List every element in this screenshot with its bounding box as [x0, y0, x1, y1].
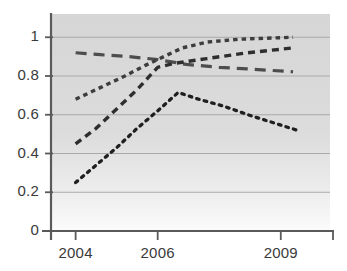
line-chart-figure: 00.20.40.60.81200420062009 — [0, 0, 347, 271]
x-axis-tick-label: 2006 — [130, 244, 186, 261]
y-axis-tick-label: 0.8 — [5, 66, 39, 83]
x-axis-tick-label: 2009 — [253, 244, 309, 261]
y-axis-tick-label: 0 — [5, 221, 39, 238]
chart-canvas — [0, 0, 347, 271]
y-axis-tick-label: 0.2 — [5, 182, 39, 199]
y-axis-tick-label: 1 — [5, 27, 39, 44]
y-axis-tick-label: 0.4 — [5, 144, 39, 161]
y-axis-tick-label: 0.6 — [5, 105, 39, 122]
x-axis-tick-label: 2004 — [48, 244, 104, 261]
plot-background — [51, 14, 330, 231]
